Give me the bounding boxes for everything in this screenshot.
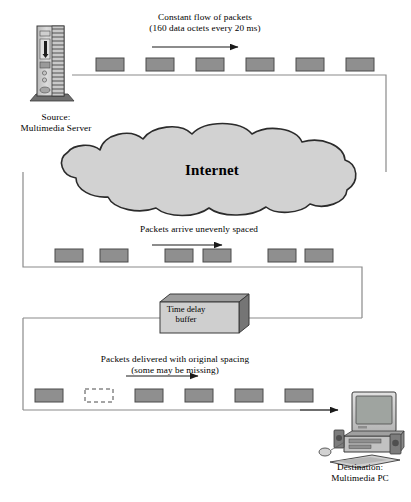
packet (185, 389, 213, 402)
caption-bottom-flow: Packets delivered with original spacing … (60, 354, 290, 376)
packet-row-transmitted (96, 58, 374, 71)
packet (100, 249, 128, 262)
destination-label-line2: Multimedia PC (310, 473, 410, 484)
packet (268, 249, 296, 262)
packet-row-delivered (35, 389, 313, 402)
buffer-box-label: Time delay buffer (154, 304, 218, 325)
packet (346, 58, 374, 71)
destination-label-line1: Destination: (310, 462, 410, 473)
caption-top-flow: Constant flow of packets (160 data octet… (110, 12, 300, 34)
source-label-line2: Multimedia Server (6, 123, 106, 134)
packet (55, 249, 83, 262)
caption-top-line2: (160 data octets every 20 ms) (110, 23, 300, 34)
packet (35, 389, 63, 402)
source-node-label: Source: Multimedia Server (6, 112, 106, 134)
packet (165, 249, 193, 262)
caption-top-line1: Constant flow of packets (110, 12, 300, 23)
packet (96, 58, 124, 71)
packet (203, 249, 231, 262)
desktop-computer-icon (319, 392, 404, 468)
caption-middle-line1: Packets arrive unevenly spaced (104, 224, 294, 235)
caption-bottom-line2: (some may be missing) (60, 365, 290, 376)
buffer-label-line1: Time delay (154, 304, 218, 314)
destination-node-label: Destination: Multimedia PC (310, 462, 410, 484)
packet (196, 58, 224, 71)
packet (296, 58, 324, 71)
caption-middle-flow: Packets arrive unevenly spaced (104, 224, 294, 235)
server-tower-icon (30, 26, 74, 101)
packet (246, 58, 274, 71)
internet-cloud-label: Internet (152, 162, 272, 179)
packet-missing (85, 389, 113, 402)
caption-bottom-line1: Packets delivered with original spacing (60, 354, 290, 365)
network-diagram-figure: Constant flow of packets (160 data octet… (0, 0, 411, 502)
packet (135, 389, 163, 402)
packet (235, 389, 263, 402)
packet (146, 58, 174, 71)
diagram-canvas (0, 0, 411, 502)
source-label-line1: Source: (6, 112, 106, 123)
packet (305, 249, 333, 262)
buffer-label-line2: buffer (154, 314, 218, 324)
packet-row-received (55, 249, 333, 262)
packet (285, 389, 313, 402)
